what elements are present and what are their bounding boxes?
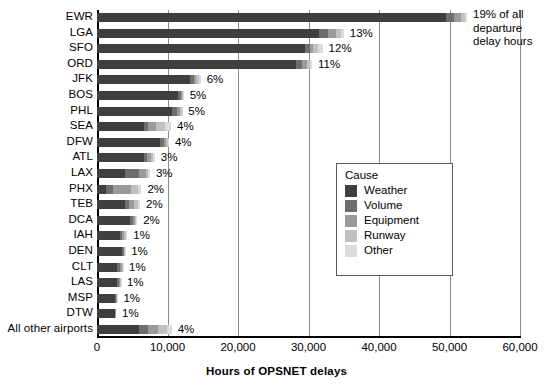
legend-swatch-icon — [345, 200, 357, 212]
x-tick-10000: 10,000 — [150, 341, 185, 353]
bar-segment-other — [153, 153, 154, 162]
y-axis-label-phl: PHL — [70, 105, 93, 116]
bar-segment-weather — [97, 107, 172, 116]
y-axis-label-msp: MSP — [68, 292, 93, 303]
bar-segment-weather — [97, 231, 120, 240]
bar-value-label: 1% — [133, 229, 150, 241]
ewr-annotation-callout: 19% of all departure delay hours — [473, 8, 549, 49]
bar-value-label: 3% — [161, 151, 178, 163]
bar-value-label: 4% — [177, 120, 194, 132]
legend: Cause WeatherVolumeEquipmentRunwayOther — [336, 163, 453, 276]
x-tick-30000: 30,000 — [291, 341, 326, 353]
bar-segment-weather — [97, 278, 117, 287]
bar-value-label: 2% — [147, 183, 164, 195]
bar-segment-other — [183, 91, 184, 100]
legend-item-label: Weather — [364, 184, 407, 197]
y-axis-label-atl: ATL — [72, 151, 93, 162]
bar-value-label: 5% — [190, 89, 207, 101]
bar-segment-volume — [139, 325, 147, 334]
legend-items: WeatherVolumeEquipmentRunwayOther — [345, 184, 452, 257]
bar-segment-weather — [97, 169, 125, 178]
bar-segment-other — [125, 247, 126, 256]
bar-segment-weather — [97, 122, 144, 131]
legend-item-runway[interactable]: Runway — [345, 229, 452, 242]
bar-segment-other — [182, 107, 183, 116]
callout-line-1: 19% of all — [473, 8, 549, 22]
bar-segment-volume — [125, 169, 139, 178]
x-tick-0: 0 — [94, 341, 100, 353]
y-axis-label-iah: IAH — [74, 229, 93, 240]
bar-segment-other — [123, 263, 124, 272]
y-axis-label-clt: CLT — [72, 261, 93, 272]
bar-segment-equipment — [113, 185, 131, 194]
bar-value-label: 1% — [123, 292, 140, 304]
bar-segment-other — [126, 231, 127, 240]
bar-segment-equipment — [148, 325, 159, 334]
bar-value-label: 4% — [175, 136, 192, 148]
bar-segment-weather — [97, 29, 319, 38]
bar-segment-other — [465, 13, 467, 22]
bar-segment-weather — [97, 153, 144, 162]
y-axis-label-phx: PHX — [69, 183, 93, 194]
callout-line-2: departure — [473, 22, 549, 36]
y-axis-label-lax: LAX — [71, 167, 93, 178]
y-axis-label-jfk: JFK — [72, 73, 93, 84]
legend-title: Cause — [345, 169, 452, 182]
bar-value-label: 3% — [156, 167, 173, 179]
legend-item-weather[interactable]: Weather — [345, 184, 452, 197]
bar-segment-weather — [97, 91, 178, 100]
x-tick-60000: 60,000 — [502, 341, 537, 353]
x-tick-20000: 20,000 — [220, 341, 255, 353]
bar-segment-runway — [156, 122, 165, 131]
bar-value-label: 6% — [207, 73, 224, 85]
bar-value-label: 1% — [129, 261, 146, 273]
y-axis-label-all-other-airports: All other airports — [7, 323, 93, 334]
bar-value-label: 1% — [131, 245, 148, 257]
x-tick-40000: 40,000 — [361, 341, 396, 353]
bar-segment-weather — [97, 216, 130, 225]
bar-segment-other — [165, 122, 171, 131]
bar-segment-other — [318, 44, 322, 53]
bar-segment-other — [117, 294, 118, 303]
bar-segment-weather — [97, 294, 115, 303]
bar-segment-weather — [97, 247, 122, 256]
y-axis-label-dfw: DFW — [67, 136, 93, 147]
plot-area: 19%13%12%11%6%5%5%4%4%3%3%2%2%2%1%1%1%1%… — [97, 10, 520, 337]
bar-value-label: 4% — [178, 323, 195, 335]
legend-swatch-icon — [345, 245, 357, 257]
bar-segment-other — [148, 169, 149, 178]
bar-segment-other — [121, 278, 122, 287]
bar-segment-other — [167, 325, 172, 334]
bar-value-label: 2% — [146, 198, 163, 210]
legend-swatch-icon — [345, 215, 357, 227]
bar-segment-other — [310, 60, 312, 69]
bar-value-label: 5% — [188, 105, 205, 117]
bar-value-label: 2% — [143, 214, 160, 226]
bar-segment-other — [168, 138, 169, 147]
y-axis-label-teb: TEB — [70, 198, 93, 209]
bar-segment-other — [138, 185, 142, 194]
bar-segment-weather — [97, 263, 117, 272]
y-axis-label-dtw: DTW — [67, 307, 93, 318]
bar-segment-weather — [97, 200, 125, 209]
callout-line-3: delay hours — [473, 35, 549, 49]
legend-item-other[interactable]: Other — [345, 244, 452, 257]
y-axis-label-sfo: SFO — [69, 42, 93, 53]
bar-segment-weather — [97, 60, 296, 69]
x-axis-title: Hours of OPSNET delays — [0, 365, 553, 377]
legend-swatch-icon — [345, 230, 357, 242]
legend-item-equipment[interactable]: Equipment — [345, 214, 452, 227]
bar-segment-weather — [97, 185, 106, 194]
bar-segment-equipment — [328, 29, 336, 38]
y-axis-category-labels: EWRLGASFOORDJFKBOSPHLSEADFWATLLAXPHXTEBD… — [0, 10, 93, 337]
bar-segment-other — [199, 75, 200, 84]
x-tick-50000: 50,000 — [432, 341, 467, 353]
bar-segment-runway — [131, 185, 138, 194]
legend-item-volume[interactable]: Volume — [345, 199, 452, 212]
y-axis-label-den: DEN — [68, 245, 93, 256]
legend-item-label: Equipment — [364, 214, 419, 227]
bar-segment-weather — [97, 44, 305, 53]
bar-segment-volume — [446, 13, 454, 22]
bar-segment-volume — [319, 29, 328, 38]
opsnet-delay-bar-chart: EWRLGASFOORDJFKBOSPHLSEADFWATLLAXPHXTEBD… — [0, 0, 553, 390]
